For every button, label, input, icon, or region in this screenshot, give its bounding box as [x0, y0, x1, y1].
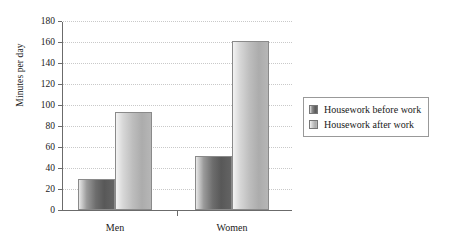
y-tick-mark: [58, 168, 62, 169]
bar: [115, 112, 152, 210]
y-tick-mark: [58, 189, 62, 190]
chart-legend: Housework before workHousework after wor…: [303, 97, 429, 137]
y-tick-label: 140: [41, 59, 55, 69]
x-axis-label-men: Men: [106, 222, 124, 233]
bar-chart-figure: Minutes per day 020406080100120140160180…: [0, 0, 469, 245]
y-tick-mark: [58, 42, 62, 43]
y-tick-label: 80: [46, 122, 56, 132]
y-axis-title: Minutes per day: [15, 15, 25, 135]
y-tick-label: 60: [46, 143, 56, 153]
y-tick-label: 120: [41, 80, 55, 90]
y-tick-mark: [58, 63, 62, 64]
x-axis-label-women: Women: [217, 222, 248, 233]
y-tick-label: 160: [41, 38, 55, 48]
legend-item[interactable]: Housework before work: [309, 102, 421, 117]
x-axis-group-separator-tick: [177, 211, 178, 216]
bar: [195, 156, 232, 210]
y-tick-label: 100: [41, 101, 55, 111]
y-tick-mark: [58, 126, 62, 127]
y-tick-mark: [58, 147, 62, 148]
y-tick-mark: [58, 105, 62, 106]
legend-swatch-icon: [309, 120, 318, 129]
gridline: [63, 21, 292, 22]
bar: [78, 179, 115, 211]
bar: [232, 41, 269, 210]
legend-item[interactable]: Housework after work: [309, 117, 421, 132]
y-axis-line: [62, 22, 63, 211]
legend-label: Housework after work: [324, 120, 414, 130]
y-tick-mark: [58, 21, 62, 22]
y-tick-label: 40: [46, 164, 56, 174]
y-tick-mark: [58, 210, 62, 211]
y-tick-label: 20: [46, 185, 56, 195]
y-tick-label: 0: [50, 206, 55, 216]
legend-swatch-icon: [309, 105, 318, 114]
legend-label: Housework before work: [324, 105, 421, 115]
plot-area: 020406080100120140160180 MenWomen: [62, 22, 292, 211]
y-tick-label: 180: [41, 17, 55, 27]
y-tick-mark: [58, 84, 62, 85]
